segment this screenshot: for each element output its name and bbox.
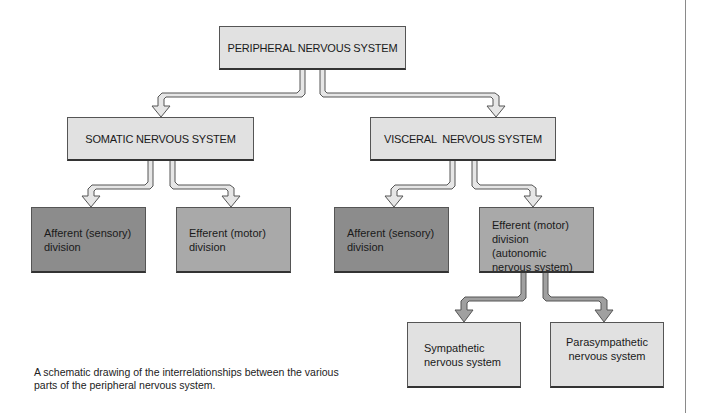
arrow-efferent-to-sympathetic: [455, 272, 526, 322]
somatic-afferent-division-box: Afferent (sensory) division: [31, 207, 146, 273]
visceral-afferent-division-label: Afferent (sensory) division: [347, 227, 434, 253]
arrow-somatic-to-efferent: [170, 160, 240, 207]
figure-caption: A schematic drawing of the interrelation…: [34, 366, 354, 392]
arrow-root-to-somatic: [152, 69, 305, 117]
somatic-nervous-system-label: SOMATIC NERVOUS SYSTEM: [85, 133, 235, 145]
sympathetic-nervous-system-box: Sympathetic nervous system: [407, 322, 521, 388]
somatic-afferent-division-label: Afferent (sensory) division: [44, 227, 131, 253]
visceral-efferent-division-box: Efferent (motor) division (autonomic ner…: [479, 207, 594, 273]
visceral-efferent-division-label: Efferent (motor) division (autonomic ner…: [492, 219, 573, 273]
somatic-efferent-division-box: Efferent (motor) division: [176, 207, 291, 273]
sympathetic-nervous-system-label: Sympathetic nervous system: [424, 342, 501, 368]
arrow-somatic-to-afferent: [82, 160, 153, 207]
visceral-nervous-system-label: VISCERAL NERVOUS SYSTEM: [384, 133, 542, 145]
peripheral-nervous-system-label: PERIPHERAL NERVOUS SYSTEM: [228, 42, 398, 54]
page-margin-rule: [685, 0, 686, 413]
somatic-efferent-division-label: Efferent (motor) division: [189, 227, 266, 253]
parasympathetic-nervous-system-box: Parasympathetic nervous system: [550, 322, 664, 388]
arrow-visceral-to-efferent: [472, 160, 542, 207]
arrow-efferent-to-parasympathetic: [543, 272, 613, 322]
peripheral-nervous-system-box: PERIPHERAL NERVOUS SYSTEM: [219, 26, 406, 70]
arrow-visceral-to-afferent: [385, 160, 455, 207]
arrow-root-to-visceral: [320, 69, 505, 117]
somatic-nervous-system-box: SOMATIC NERVOUS SYSTEM: [67, 117, 254, 161]
visceral-nervous-system-box: VISCERAL NERVOUS SYSTEM: [370, 117, 556, 161]
visceral-afferent-division-box: Afferent (sensory) division: [334, 207, 449, 273]
parasympathetic-nervous-system-label: Parasympathetic nervous system: [566, 336, 648, 362]
